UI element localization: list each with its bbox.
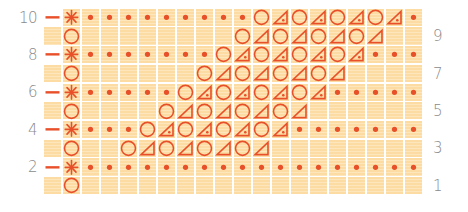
- stitch-cell: [385, 8, 404, 27]
- stitch-cell: [195, 27, 214, 46]
- stitch-cell: [385, 120, 404, 139]
- stitch-cell: [81, 64, 100, 83]
- stitch-cell: [138, 45, 157, 64]
- stitch-cell: [62, 102, 81, 121]
- stitch-cell: [233, 176, 252, 195]
- stitch-cell: [119, 139, 138, 158]
- stitch-cell: [290, 102, 309, 121]
- stitch-cell: [233, 120, 252, 139]
- stitch-cell: [290, 120, 309, 139]
- stitch-cell: [290, 176, 309, 195]
- stitch-cell: [195, 64, 214, 83]
- chart-row-7: [43, 64, 423, 83]
- stitch-cell: [385, 27, 404, 46]
- stitch-cell: [347, 45, 366, 64]
- stitch-cell: [252, 176, 271, 195]
- stitch-cell: [347, 64, 366, 83]
- stitch-cell: [271, 27, 290, 46]
- stitch-cell: [404, 8, 423, 27]
- stitch-cell: [309, 158, 328, 177]
- stitch-cell: [214, 158, 233, 177]
- stitch-cell: [62, 64, 81, 83]
- row-number-label: 8: [28, 46, 37, 64]
- stitch-cell: [309, 45, 328, 64]
- edge-cell: [43, 120, 62, 139]
- stitch-cell: [271, 176, 290, 195]
- stitch-cell: [119, 158, 138, 177]
- stitch-cell: [195, 45, 214, 64]
- stitch-cell: [366, 158, 385, 177]
- stitch-cell: [385, 176, 404, 195]
- chart-row-4: [43, 120, 423, 139]
- stitch-cell: [214, 139, 233, 158]
- stitch-cell: [81, 158, 100, 177]
- stitch-cell: [385, 45, 404, 64]
- stitch-cell: [309, 27, 328, 46]
- stitch-cell: [176, 102, 195, 121]
- row-number-label: 3: [433, 139, 442, 157]
- row-number-label: 2: [28, 158, 37, 176]
- stitch-cell: [233, 8, 252, 27]
- stitch-cell: [138, 27, 157, 46]
- stitch-cell: [328, 64, 347, 83]
- stitch-cell: [252, 120, 271, 139]
- stitch-cell: [404, 120, 423, 139]
- stitch-cell: [347, 27, 366, 46]
- stitch-cell: [328, 45, 347, 64]
- stitch-cell: [309, 83, 328, 102]
- stitch-cell: [233, 139, 252, 158]
- stitch-cell: [100, 64, 119, 83]
- row-number-label: 10: [19, 9, 37, 27]
- stitch-cell: [157, 8, 176, 27]
- stitch-cell: [252, 102, 271, 121]
- stitch-cell: [176, 45, 195, 64]
- stitch-cell: [138, 158, 157, 177]
- stitch-cell: [62, 120, 81, 139]
- row-number-label: 5: [433, 102, 442, 120]
- stitch-cell: [176, 83, 195, 102]
- stitch-cell: [195, 176, 214, 195]
- stitch-cell: [119, 8, 138, 27]
- stitch-cell: [385, 102, 404, 121]
- stitch-cell: [404, 45, 423, 64]
- stitch-cell: [366, 102, 385, 121]
- row-number-label: 6: [28, 83, 37, 101]
- stitch-cell: [62, 139, 81, 158]
- stitch-cell: [100, 102, 119, 121]
- stitch-cell: [271, 158, 290, 177]
- stitch-cell: [176, 176, 195, 195]
- row-number-label: 7: [433, 65, 442, 83]
- stitch-cell: [176, 139, 195, 158]
- stitch-cell: [252, 27, 271, 46]
- edge-cell: [43, 158, 62, 177]
- stitch-cell: [328, 8, 347, 27]
- stitch-cell: [271, 8, 290, 27]
- stitch-cell: [119, 27, 138, 46]
- chart-row-2: [43, 158, 423, 177]
- stitch-cell: [100, 83, 119, 102]
- stitch-cell: [271, 139, 290, 158]
- stitch-cell: [138, 83, 157, 102]
- stitch-cell: [81, 8, 100, 27]
- stitch-cell: [404, 176, 423, 195]
- stitch-cell: [62, 176, 81, 195]
- stitch-cell: [271, 102, 290, 121]
- stitch-cell: [62, 158, 81, 177]
- edge-cell: [43, 102, 62, 121]
- stitch-cell: [366, 139, 385, 158]
- stitch-cell: [404, 27, 423, 46]
- stitch-grid: [43, 8, 423, 195]
- stitch-cell: [347, 102, 366, 121]
- stitch-cell: [119, 102, 138, 121]
- stitch-cell: [195, 8, 214, 27]
- row-number-label: 4: [28, 121, 37, 139]
- stitch-cell: [233, 27, 252, 46]
- stitch-cell: [366, 27, 385, 46]
- stitch-cell: [328, 158, 347, 177]
- stitch-cell: [214, 102, 233, 121]
- stitch-cell: [138, 176, 157, 195]
- stitch-cell: [81, 83, 100, 102]
- stitch-cell: [309, 176, 328, 195]
- stitch-cell: [81, 27, 100, 46]
- stitch-cell: [347, 8, 366, 27]
